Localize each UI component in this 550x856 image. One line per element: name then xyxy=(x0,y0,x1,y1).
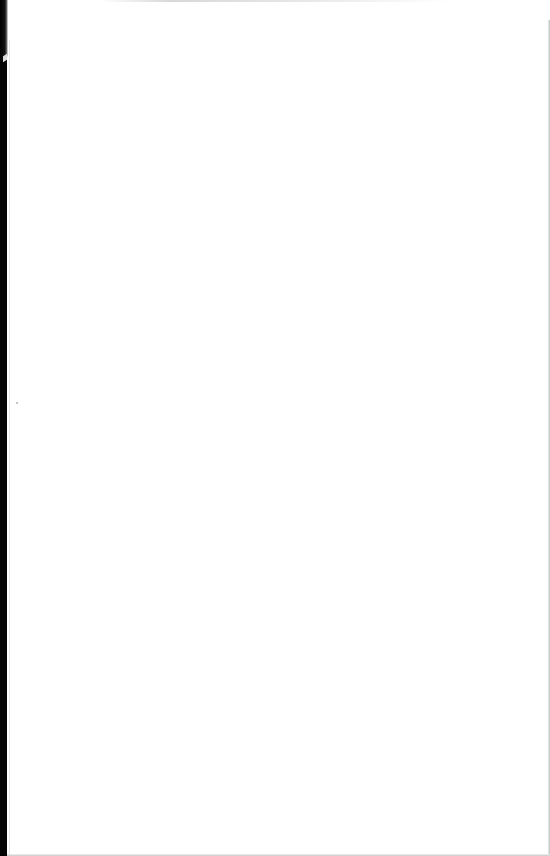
scanned-page xyxy=(0,0,550,856)
binding-shadow xyxy=(0,0,7,856)
page-body xyxy=(20,20,530,836)
page-top-edge xyxy=(100,0,450,2)
page-margin-line xyxy=(9,40,10,856)
dust-speck xyxy=(16,402,18,404)
binding-curl xyxy=(0,0,8,60)
